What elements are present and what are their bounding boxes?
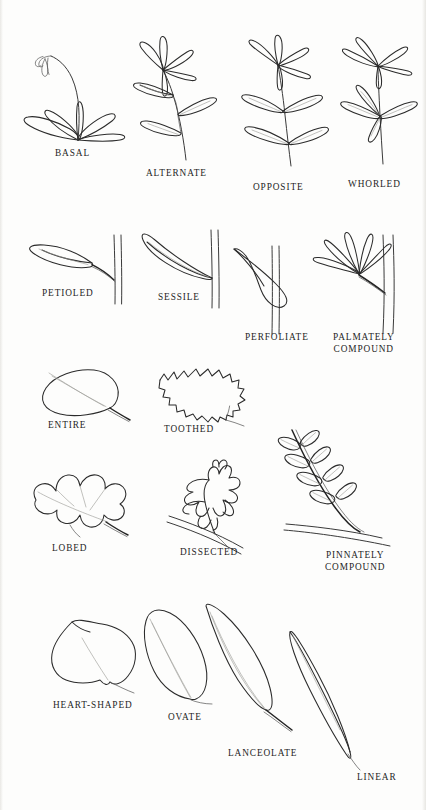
label-palmately-compound-line2: COMPOUND xyxy=(333,343,395,355)
figure-pinnately-compound xyxy=(278,428,424,550)
opposite-node-upper xyxy=(242,95,323,113)
toothed-blade xyxy=(159,369,245,422)
figure-opposite xyxy=(233,33,337,168)
dissected-blade xyxy=(183,460,240,534)
figure-lobed xyxy=(26,462,138,542)
label-lobed: LOBED xyxy=(52,543,88,555)
label-heart-shaped: HEART-SHAPED xyxy=(53,700,133,712)
palmate-petiole xyxy=(359,275,386,295)
opposite-terminal-whorl xyxy=(249,35,310,90)
label-pinnately-compound: PINNATELY COMPOUND xyxy=(325,549,385,573)
label-basal: BASAL xyxy=(55,148,90,160)
linear-tip xyxy=(348,754,360,770)
figure-basal xyxy=(14,34,134,144)
label-whorled: WHORLED xyxy=(348,179,401,191)
label-toothed: TOOTHED xyxy=(164,424,214,436)
petioled-petiole xyxy=(92,265,115,282)
label-entire: ENTIRE xyxy=(48,420,86,432)
sessile-blade xyxy=(142,234,212,279)
label-perfoliate: PERFOLIATE xyxy=(245,332,309,344)
figure-whorled xyxy=(335,36,425,166)
figure-palmately-compound xyxy=(305,227,415,337)
entire-petiole xyxy=(108,408,130,422)
basal-leaves xyxy=(24,102,125,141)
pinnate-ground-stem xyxy=(284,524,390,546)
label-palmately-compound-line1: PALMATELY xyxy=(333,331,395,343)
page-edge-left xyxy=(0,0,3,810)
label-linear: LINEAR xyxy=(357,772,396,784)
heart-petiole xyxy=(110,682,134,693)
heart-blade xyxy=(52,620,136,684)
label-pinnately-compound-line1: PINNATELY xyxy=(325,549,385,561)
linear-blade xyxy=(290,631,351,758)
label-palmately-compound: PALMATELY COMPOUND xyxy=(333,331,395,355)
pinnate-leaflets xyxy=(278,431,356,504)
opposite-stem xyxy=(278,65,291,166)
label-pinnately-compound-line2: COMPOUND xyxy=(325,561,385,573)
figure-heart-shaped xyxy=(48,612,144,694)
lanceolate-blade xyxy=(206,604,272,710)
perfoliate-stem xyxy=(272,246,279,334)
figure-alternate xyxy=(128,32,238,162)
label-opposite: OPPOSITE xyxy=(253,182,304,194)
label-sessile: SESSILE xyxy=(158,292,200,304)
figure-linear xyxy=(280,618,398,768)
figure-dissected xyxy=(155,458,275,556)
figure-plate: BASAL xyxy=(0,0,426,810)
label-alternate: ALTERNATE xyxy=(146,168,207,180)
label-dissected: DISSECTED xyxy=(180,547,238,559)
alternate-leaf-upper-right xyxy=(178,98,217,116)
alternate-terminal-whorl xyxy=(140,37,196,97)
figure-entire xyxy=(32,362,138,424)
petioled-blade xyxy=(30,245,93,268)
whorled-node-upper xyxy=(342,38,411,89)
label-ovate: OVATE xyxy=(168,712,202,724)
label-petioled: PETIOLED xyxy=(42,288,94,300)
figure-toothed xyxy=(148,360,256,428)
petioled-stem xyxy=(114,235,122,304)
palmate-leaflets xyxy=(313,233,391,275)
sessile-stem xyxy=(211,230,219,308)
lobed-blade xyxy=(34,475,126,527)
alternate-leaf-lower-left xyxy=(141,121,182,136)
entire-blade xyxy=(42,370,118,416)
